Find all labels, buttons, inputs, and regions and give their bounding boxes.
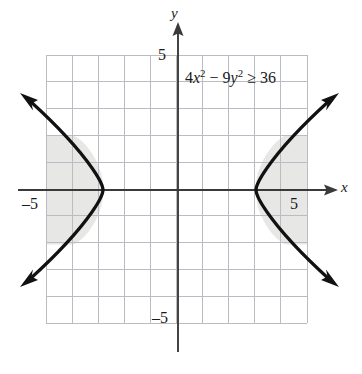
coordinate-plane-svg [0, 0, 362, 374]
x-axis-label: x [341, 180, 348, 195]
y-axis-tick-label-5: 5 [158, 47, 166, 63]
grid-lines [46, 55, 307, 323]
x-axis-tick-label-neg5: –5 [22, 196, 38, 212]
graph-figure: y x 5 –5 –5 5 4x2 − 9y2 ≥ 36 [0, 0, 362, 374]
y-axis-tick-label-neg5: –5 [152, 310, 168, 326]
equation-coefficient-y: 9 [223, 69, 231, 86]
x-axis-tick-label-5: 5 [290, 196, 298, 212]
equation-minus-sign: − [210, 69, 219, 86]
equation-constant: 36 [260, 69, 276, 86]
y-axis-label: y [171, 6, 178, 21]
equation-relation-sign: ≥ [247, 69, 256, 86]
equation-var-y: y [231, 69, 238, 86]
inequality-annotation: 4x2 − 9y2 ≥ 36 [185, 68, 276, 86]
equation-coefficient-x: 4 [185, 69, 193, 86]
